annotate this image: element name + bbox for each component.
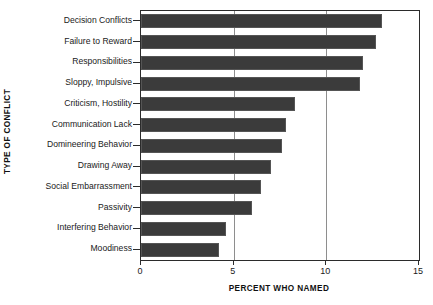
y-axis-tick	[133, 207, 140, 208]
bar	[141, 56, 363, 70]
y-axis-tick	[133, 145, 140, 146]
x-axis-tick-label: 10	[320, 266, 330, 276]
bar	[141, 160, 271, 174]
y-axis-tick	[133, 41, 140, 42]
bar	[141, 243, 219, 257]
bar	[141, 14, 382, 28]
category-label: Drawing Away	[18, 161, 132, 170]
y-axis-tick	[133, 249, 140, 250]
plot-inner	[141, 11, 419, 260]
y-axis-tick	[133, 83, 140, 84]
bar	[141, 77, 360, 91]
category-label: Interfering Behavior	[18, 223, 132, 232]
x-axis-title: PERCENT WHO NAMED	[140, 284, 418, 293]
category-label: Communication Lack	[18, 120, 132, 129]
x-axis-tick-label: 15	[413, 266, 423, 276]
category-label: Responsibilities	[18, 57, 132, 66]
bar	[141, 35, 376, 49]
y-axis-title: TYPE OF CONFLICT	[0, 0, 16, 262]
x-axis-tick	[418, 260, 419, 265]
y-axis-tick	[133, 124, 140, 125]
category-label: Sloppy, Impulsive	[18, 78, 132, 87]
y-axis-tick	[133, 103, 140, 104]
x-axis-tick-label: 5	[230, 266, 235, 276]
x-axis-tick	[140, 260, 141, 265]
plot-area	[140, 10, 420, 261]
category-label: Passivity	[18, 203, 132, 212]
y-axis-tick	[133, 166, 140, 167]
category-label: Moodiness	[18, 244, 132, 253]
y-axis-tick	[133, 228, 140, 229]
category-label-list: Decision ConflictsFailure to RewardRespo…	[18, 10, 132, 259]
y-axis-tick	[133, 186, 140, 187]
category-label: Failure to Reward	[18, 37, 132, 46]
bar	[141, 118, 286, 132]
y-axis-tick	[133, 20, 140, 21]
y-axis-title-text: TYPE OF CONFLICT	[4, 88, 13, 173]
category-label: Criticism, Hostility	[18, 99, 132, 108]
category-label: Domineering Behavior	[18, 140, 132, 149]
bar-chart: TYPE OF CONFLICT Decision ConflictsFailu…	[0, 0, 433, 305]
bar	[141, 97, 295, 111]
category-label: Decision Conflicts	[18, 16, 132, 25]
category-label: Social Embarrassment	[18, 182, 132, 191]
x-axis-tick	[233, 260, 234, 265]
x-axis-tick-label: 0	[137, 266, 142, 276]
bar	[141, 222, 226, 236]
bar	[141, 139, 282, 153]
bar	[141, 201, 252, 215]
y-axis-tick	[133, 62, 140, 63]
bar	[141, 180, 261, 194]
x-axis-tick	[325, 260, 326, 265]
